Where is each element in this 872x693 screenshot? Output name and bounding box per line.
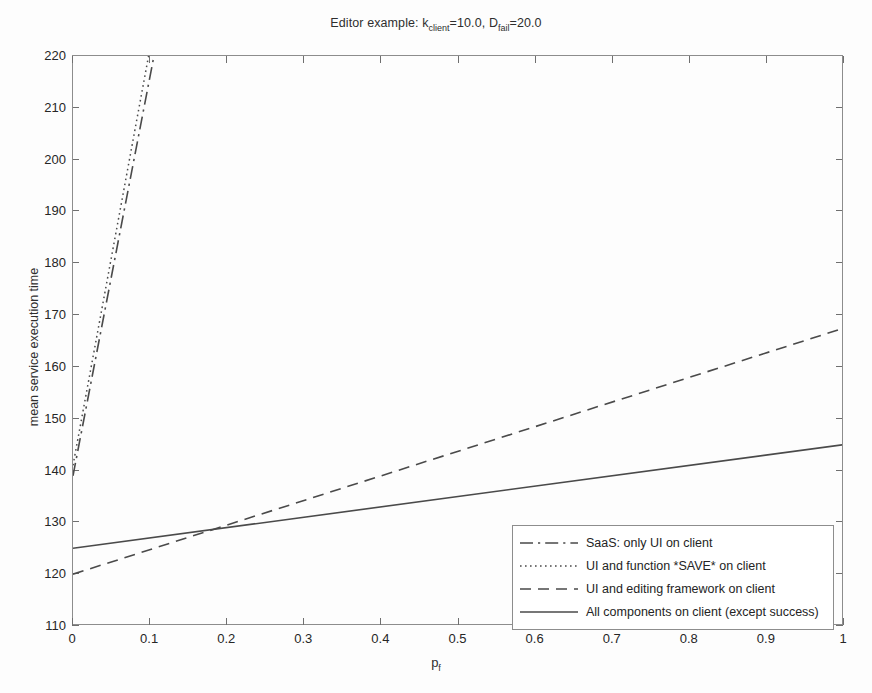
x-tick-mark — [149, 618, 150, 625]
legend-label-2: UI and editing framework on client — [586, 582, 775, 596]
x-tick-mark — [149, 56, 150, 63]
x-tick-mark — [689, 56, 690, 63]
x-tick-mark — [380, 618, 381, 625]
x-axis-tick-0.2: 0.2 — [217, 631, 235, 646]
series-line-1 — [73, 56, 149, 465]
chart-title-subscript-client: client — [429, 23, 450, 33]
chart-title-subscript-fail: fail — [498, 23, 510, 33]
y-axis-tick-130: 130 — [28, 514, 66, 529]
x-tick-mark — [843, 618, 844, 625]
chart-title: Editor example: kclient=10.0, Dfail=20.0 — [0, 16, 872, 33]
y-axis-tick-labels: 110120130140150160170180190200210220 — [22, 0, 66, 693]
chart-legend: SaaS: only UI on clientUI and function *… — [512, 525, 834, 630]
legend-label-0: SaaS: only UI on client — [586, 536, 712, 550]
y-axis-tick-220: 220 — [28, 48, 66, 63]
x-tick-mark — [843, 56, 844, 63]
x-tick-mark — [458, 618, 459, 625]
x-axis-label: pf — [0, 655, 872, 673]
y-axis-tick-160: 160 — [28, 358, 66, 373]
x-tick-mark — [612, 56, 613, 63]
x-tick-mark — [226, 56, 227, 63]
y-axis-tick-210: 210 — [28, 99, 66, 114]
legend-item-0[interactable]: SaaS: only UI on client — [519, 531, 827, 554]
chart-title-suffix: =20.0 — [510, 16, 542, 30]
x-tick-mark — [458, 56, 459, 63]
legend-line-sample-solid-icon — [519, 606, 579, 618]
legend-item-3[interactable]: All components on client (except success… — [519, 600, 827, 623]
legend-label-1: UI and function *SAVE* on client — [586, 559, 766, 573]
legend-item-2[interactable]: UI and editing framework on client — [519, 577, 827, 600]
x-axis-tick-labels: 00.10.20.30.40.50.60.70.80.91 — [0, 631, 872, 655]
x-tick-mark — [303, 56, 304, 63]
x-tick-mark — [72, 56, 73, 63]
x-tick-mark — [72, 618, 73, 625]
legend-line-sample-dashdot-icon — [519, 537, 579, 549]
x-axis-label-subscript: f — [438, 663, 441, 673]
x-tick-mark — [766, 56, 767, 63]
x-axis-tick-0.3: 0.3 — [294, 631, 312, 646]
x-axis-tick-0.4: 0.4 — [371, 631, 389, 646]
chart-title-mid: =10.0, D — [450, 16, 498, 30]
legend-item-1[interactable]: UI and function *SAVE* on client — [519, 554, 827, 577]
x-axis-tick-0.5: 0.5 — [448, 631, 466, 646]
legend-label-3: All components on client (except success… — [586, 605, 819, 619]
y-axis-tick-190: 190 — [28, 203, 66, 218]
y-axis-tick-140: 140 — [28, 462, 66, 477]
y-tick-mark — [72, 625, 79, 626]
x-tick-mark — [303, 618, 304, 625]
y-axis-tick-120: 120 — [28, 566, 66, 581]
chart-figure: Editor example: kclient=10.0, Dfail=20.0… — [0, 0, 872, 693]
x-axis-tick-0.8: 0.8 — [680, 631, 698, 646]
legend-line-sample-dashed-icon — [519, 583, 579, 595]
x-axis-tick-0.9: 0.9 — [757, 631, 775, 646]
x-axis-tick-0.1: 0.1 — [140, 631, 158, 646]
x-axis-tick-0: 0 — [68, 631, 75, 646]
x-tick-mark — [380, 56, 381, 63]
x-axis-tick-0.7: 0.7 — [603, 631, 621, 646]
chart-title-prefix: Editor example: k — [330, 16, 428, 30]
series-line-0 — [73, 56, 154, 476]
y-axis-tick-180: 180 — [28, 255, 66, 270]
x-axis-tick-1: 1 — [839, 631, 846, 646]
y-axis-tick-150: 150 — [28, 410, 66, 425]
x-axis-tick-0.6: 0.6 — [526, 631, 544, 646]
y-axis-tick-200: 200 — [28, 151, 66, 166]
y-tick-mark — [836, 625, 843, 626]
legend-line-sample-dotted-icon — [519, 560, 579, 572]
y-axis-tick-170: 170 — [28, 307, 66, 322]
x-tick-mark — [226, 618, 227, 625]
x-tick-mark — [535, 56, 536, 63]
